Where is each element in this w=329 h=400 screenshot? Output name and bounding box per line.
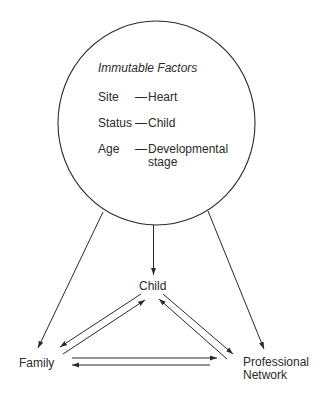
factor-age-value-line2: stage — [148, 156, 177, 168]
relationship-diagram — [0, 0, 329, 400]
factor-age-dash: — — [135, 143, 147, 155]
arrow-child-to-family — [60, 294, 141, 347]
factor-status-dash: — — [135, 117, 147, 129]
arrow-circle-to-professional — [208, 211, 264, 349]
node-family-label: Family — [19, 357, 54, 369]
immutable-factors-title: Immutable Factors — [98, 62, 197, 74]
node-professional-label-line1: Professional — [243, 356, 309, 368]
node-professional-label-line2: Network — [243, 369, 287, 381]
factor-age-key: Age — [98, 143, 119, 155]
factor-age-value: Developmental — [148, 143, 228, 155]
factor-site-dash: — — [135, 91, 147, 103]
node-child-label: Child — [139, 280, 166, 292]
factor-site-key: Site — [98, 91, 119, 103]
arrow-child-to-professional — [163, 294, 233, 354]
arrow-professional-to-child — [159, 299, 227, 359]
factor-status-value: Child — [148, 117, 175, 129]
factor-status-key: Status — [98, 117, 132, 129]
factor-site-value: Heart — [148, 91, 177, 103]
arrow-family-to-child — [63, 300, 145, 354]
arrow-circle-to-family — [38, 212, 103, 348]
